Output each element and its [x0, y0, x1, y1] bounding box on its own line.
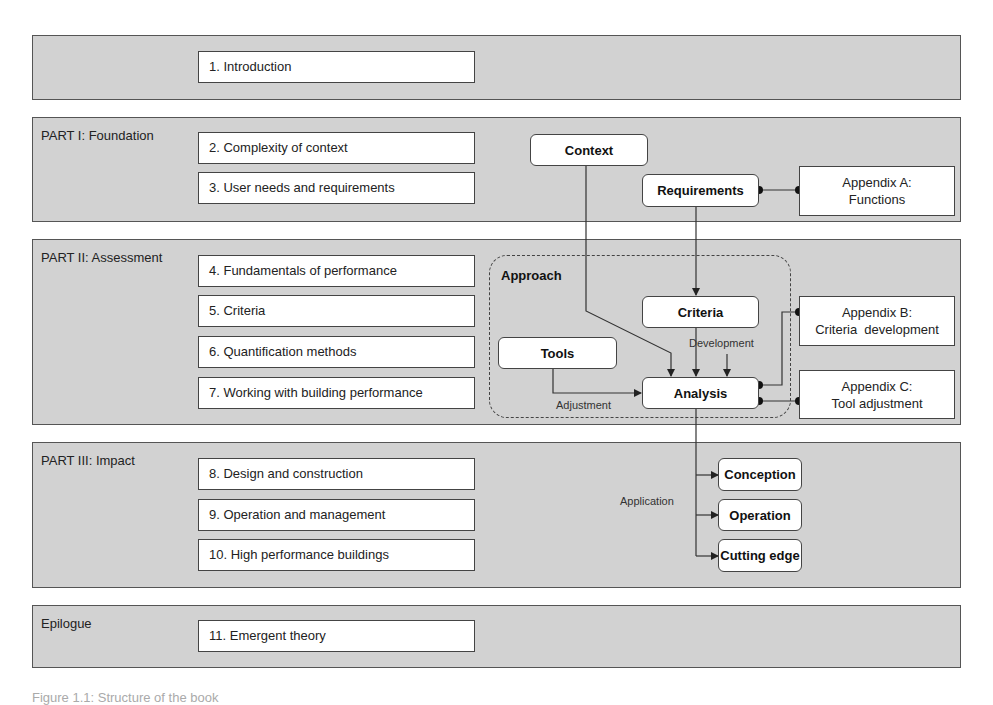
node-context: Context [530, 134, 648, 166]
appendix-c-title: Appendix C: [842, 378, 913, 395]
edge-label-adjustment: Adjustment [556, 399, 611, 411]
appendix-a-title: Appendix A: [842, 174, 911, 191]
appendix-b-title: Appendix B: [842, 304, 912, 321]
appendix-b: Appendix B: Criteria development [799, 296, 955, 346]
node-operation: Operation [718, 499, 802, 531]
node-criteria: Criteria [642, 296, 759, 328]
node-tools: Tools [498, 337, 617, 369]
appendix-c-subtitle: Tool adjustment [831, 395, 922, 412]
appendix-b-subtitle: Criteria development [815, 321, 939, 338]
appendix-a-subtitle: Functions [849, 191, 905, 208]
appendix-a: Appendix A: Functions [799, 166, 955, 216]
node-analysis: Analysis [642, 377, 759, 409]
node-cutting-edge: Cutting edge [718, 539, 802, 572]
edge-label-development: Development [689, 337, 754, 349]
appendix-c: Appendix C: Tool adjustment [799, 370, 955, 419]
node-requirements: Requirements [642, 174, 759, 207]
node-conception: Conception [718, 458, 802, 491]
figure-caption: Figure 1.1: Structure of the book [32, 690, 218, 705]
edge-label-application: Application [620, 495, 674, 507]
